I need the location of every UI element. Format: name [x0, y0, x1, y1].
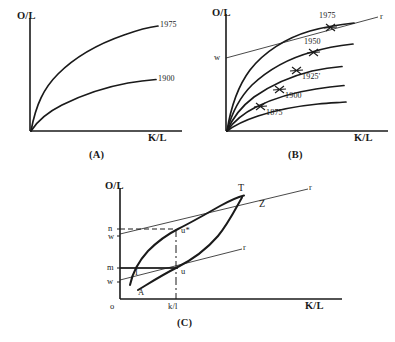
panel-a-label-1975: 1975 — [160, 21, 177, 29]
panel-c-caption: (C) — [177, 318, 192, 329]
panel-b-label-1950: 1950 — [304, 38, 321, 46]
panel-a-label-1900: 1900 — [158, 75, 175, 83]
panel-c-tick-label-w-upper: w — [108, 232, 114, 241]
panel-b-label-1975: 1975 — [319, 12, 336, 20]
panel-b-y-axis-label: O/L — [212, 8, 231, 19]
panel-c-y-axis-label: O/L — [105, 181, 124, 192]
panel-c-ray-upper-label: r — [309, 183, 312, 192]
panel-a: O/L K/L 1975 1900 (A) — [0, 0, 198, 171]
panel-c-plot — [60, 172, 360, 342]
panel-c: O/L K/L o n w m w k/l T Z u* u I A r r (… — [60, 172, 360, 342]
panel-b-label-1900: 1900 — [285, 92, 302, 100]
panel-c-x-axis-label: K/L — [305, 301, 324, 312]
panel-c-point-label-I: I — [135, 268, 138, 277]
panel-b-curve-1875 — [227, 102, 346, 131]
panel-c-curve-A-u-T — [138, 198, 242, 291]
panel-a-y-axis-label: O/L — [17, 11, 36, 22]
panel-c-ray-upper — [120, 189, 308, 234]
panel-b: O/L K/L w r 1975 1950 1925' 1900 1875 (B… — [198, 0, 395, 171]
panel-c-point-label-u-star: u* — [181, 226, 190, 235]
panel-c-point-label-Z: Z — [259, 199, 265, 209]
panel-c-origin-label: o — [110, 302, 114, 311]
panel-b-ray-label: r — [380, 12, 383, 21]
panel-c-point-label-T: T — [238, 183, 244, 193]
panel-c-point-label-u: u — [181, 267, 185, 276]
panel-a-x-axis-label: K/L — [148, 133, 167, 144]
panel-b-caption: (B) — [288, 150, 303, 161]
panel-b-plot — [198, 0, 395, 171]
panel-a-curve-1900 — [31, 80, 156, 132]
panel-b-ray-r — [226, 17, 378, 58]
panel-a-caption: (A) — [89, 150, 104, 161]
panel-a-curve-1975 — [31, 26, 158, 131]
panel-b-curve-1950 — [227, 44, 353, 131]
panel-b-label-1925: 1925' — [302, 73, 320, 81]
panel-b-wage-label: w — [214, 53, 220, 62]
panel-b-label-1875: 1875 — [266, 109, 283, 117]
panel-c-tick-label-k-over-l: k/l — [168, 302, 178, 311]
panel-b-x-axis-label: K/L — [354, 133, 373, 144]
panel-c-ray-lower-label: r — [243, 243, 246, 252]
panel-c-point-label-A: A — [138, 288, 144, 297]
panel-c-tick-label-m: m — [107, 263, 114, 272]
panel-c-envelope-curve — [130, 196, 244, 286]
panel-c-tick-label-w-lower: w — [107, 277, 113, 286]
